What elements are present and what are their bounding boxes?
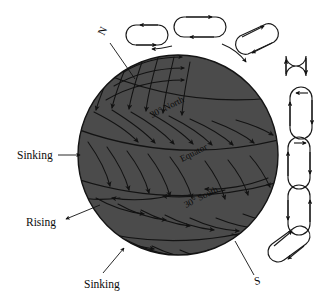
label-sinking-north: Sinking (17, 149, 53, 162)
circulation-cell-5 (290, 87, 312, 139)
circulation-cell-2 (174, 17, 226, 37)
circulation-cell-4 (286, 56, 306, 76)
circulation-cell-7 (288, 185, 310, 235)
leader-rising (66, 205, 100, 219)
circulation-cell-3 (236, 24, 279, 55)
circulation-cell-1 (126, 25, 168, 45)
leader-south-pole (235, 241, 254, 275)
label-north-pole: N (95, 24, 109, 36)
leader-sinking-south (103, 248, 124, 273)
circulation-diagram: 30° North Equator 30° South (0, 0, 334, 296)
label-sinking-south: Sinking (84, 278, 120, 291)
label-south-pole: S (253, 274, 261, 287)
circulation-cell-8 (268, 226, 310, 262)
circulation-cell-6 (288, 137, 310, 189)
label-rising: Rising (26, 216, 56, 229)
figure-root: 30° North Equator 30° South (0, 0, 334, 296)
globe: 30° North Equator 30° South (74, 53, 286, 263)
